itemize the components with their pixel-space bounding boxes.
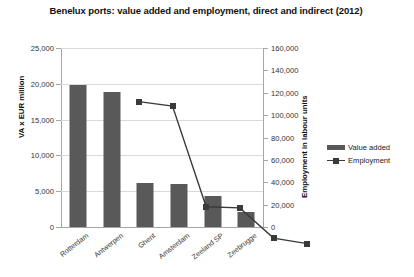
data-marker — [136, 99, 142, 105]
category-label: Antwerpen — [92, 231, 125, 259]
bar — [103, 92, 120, 227]
line-square-swatch-icon — [327, 157, 345, 164]
category-label: Rotterdam — [58, 231, 90, 259]
left-axis-tick-label: 10,000 — [31, 151, 54, 160]
data-marker — [271, 235, 277, 241]
plot-area: 05,00010,00015,00020,00025,000 020,00040… — [61, 48, 263, 227]
chart-legend: Value added Employment — [327, 141, 390, 167]
legend-label-employment: Employment — [348, 156, 390, 165]
left-axis-tick-label: 5,000 — [35, 187, 54, 196]
right-axis-tick — [263, 70, 268, 71]
left-axis-tick-label: 20,000 — [31, 79, 54, 88]
chart-title: Benelux ports: value added and employmen… — [46, 4, 366, 18]
data-marker — [237, 205, 243, 211]
data-marker — [203, 204, 209, 210]
left-axis-tick-label: 25,000 — [31, 44, 54, 53]
right-axis-tick — [263, 48, 268, 49]
right-axis-tick-label: 160,000 — [271, 44, 298, 53]
right-axis-title: Employment in labour units — [300, 95, 309, 198]
chart-container: Benelux ports: value added and employmen… — [0, 0, 414, 277]
left-axis-tick — [56, 227, 61, 228]
left-axis-tick-label: 0 — [50, 223, 54, 232]
data-marker — [170, 103, 176, 109]
line-series-employment — [122, 96, 324, 275]
employment-line-path — [122, 96, 324, 275]
left-axis-title: VA x EUR million — [17, 76, 26, 138]
right-axis-tick — [263, 93, 268, 94]
left-axis-tick-label: 15,000 — [31, 115, 54, 124]
legend-item-value-added[interactable]: Value added — [327, 141, 390, 154]
legend-item-employment[interactable]: Employment — [327, 154, 390, 167]
bar — [69, 85, 86, 227]
data-marker — [304, 241, 310, 247]
right-axis-tick-label: 140,000 — [271, 66, 298, 75]
bar-swatch-icon — [327, 145, 345, 150]
legend-label-value-added: Value added — [348, 143, 390, 152]
